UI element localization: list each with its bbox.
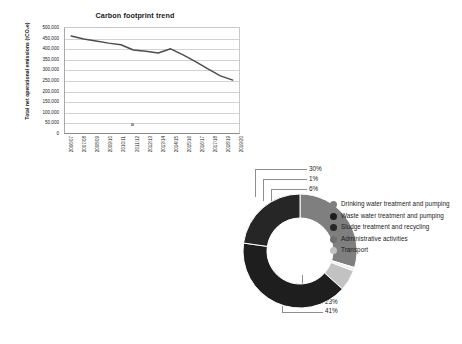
- x-tick: 2014/15: [174, 136, 179, 152]
- legend-item[interactable]: Drinking water treatment and pumping: [330, 200, 460, 208]
- line-chart-title: Carbon footprint trend: [60, 11, 210, 20]
- leader-line: [271, 189, 307, 190]
- x-tick: 2012/13: [148, 136, 153, 152]
- donut-chart-legend: Drinking water treatment and pumpingWast…: [330, 200, 460, 258]
- x-tick: 2015/16: [187, 136, 192, 152]
- y-tick: 400,000: [42, 46, 59, 51]
- leader-line: [263, 179, 307, 180]
- legend-swatch-icon: [330, 247, 337, 254]
- legend-swatch-icon: [330, 213, 337, 220]
- y-tick: 150,000: [42, 99, 59, 104]
- x-tick: 2016/17: [200, 136, 205, 152]
- legend-item-label: Transport: [341, 246, 368, 254]
- callout-30: 30%: [309, 165, 322, 172]
- leader-line: [282, 312, 323, 313]
- legend-item[interactable]: Waste water treatment and pumping: [330, 212, 460, 220]
- leader-line: [255, 169, 307, 170]
- x-tick: 2019/20: [239, 136, 244, 152]
- y-tick: 300,000: [42, 67, 59, 72]
- line-chart-series: [65, 28, 239, 133]
- callout-1: 1%: [309, 175, 318, 182]
- y-tick: 350,000: [42, 56, 59, 61]
- x-tick: 2018/19: [226, 136, 231, 152]
- x-tick: 2009/10: [108, 136, 113, 152]
- y-tick: 500,000: [42, 25, 59, 30]
- legend-item[interactable]: Transport: [330, 246, 460, 254]
- y-tick: 50,000: [45, 120, 59, 125]
- legend-swatch-icon: [330, 224, 337, 231]
- y-tick: 250,000: [42, 78, 59, 83]
- line-chart-y-tick-labels: 500,000 450,000 400,000 350,000 300,000 …: [8, 20, 62, 138]
- legend-item-label: Drinking water treatment and pumping: [341, 200, 450, 208]
- x-tick: 2007/08: [82, 136, 87, 152]
- legend-swatch-icon: [330, 201, 337, 208]
- x-tick: 2011/12: [135, 136, 140, 152]
- x-tick: 2010/11: [121, 136, 126, 152]
- donut-chart: 30% 1% 6% 23% 41% Drinking water treatme…: [196, 160, 462, 344]
- line-chart: Carbon footprint trend Total net operati…: [8, 6, 246, 162]
- donut-slice[interactable]: [243, 243, 342, 308]
- legend-swatch-icon: [330, 236, 337, 243]
- y-tick: 100,000: [42, 109, 59, 114]
- x-tick: 2008/09: [95, 136, 100, 152]
- screenshot-root: Carbon footprint trend Total net operati…: [0, 0, 462, 344]
- legend-item-label: Administrative activities: [341, 235, 408, 243]
- legend-item-label: Sludge treatment and recycling: [341, 223, 429, 231]
- x-tick: 2017/18: [213, 136, 218, 152]
- legend-item[interactable]: Sludge treatment and recycling: [330, 223, 460, 231]
- y-tick: 200,000: [42, 88, 59, 93]
- y-tick: 0: [56, 131, 59, 136]
- legend-item[interactable]: Administrative activities: [330, 235, 460, 243]
- y-tick: 450,000: [42, 35, 59, 40]
- x-tick: 2006/07: [69, 136, 74, 152]
- legend-item-label: Waste water treatment and pumping: [341, 212, 444, 220]
- donut-slice[interactable]: [244, 194, 300, 246]
- callout-6: 6%: [309, 185, 318, 192]
- line-chart-plot-area: [64, 27, 240, 134]
- x-tick: 2013/14: [161, 136, 166, 152]
